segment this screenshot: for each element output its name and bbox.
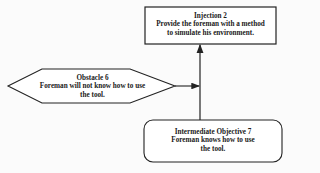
obstacle-line-1: Foreman will not know how to use — [30, 82, 155, 90]
objective-title: Intermediate Objective 7 — [144, 128, 282, 136]
obstacle-line-2: the tool. — [30, 91, 155, 99]
objective-label: Intermediate Objective 7 Foreman knows h… — [144, 128, 282, 153]
objective-line-2: the tool. — [144, 145, 282, 153]
injection-line-1: Provide the foreman with a method — [145, 20, 276, 28]
injection-line-2: to simulate his environment. — [145, 29, 276, 37]
injection-label: Injection 2 Provide the foreman with a m… — [145, 12, 276, 37]
obstacle-label: Obstacle 6 Foreman will not know how to … — [30, 74, 155, 99]
obstacle-title: Obstacle 6 — [30, 74, 155, 82]
objective-line-1: Foreman knows how to use — [144, 136, 282, 144]
injection-title: Injection 2 — [145, 12, 276, 20]
